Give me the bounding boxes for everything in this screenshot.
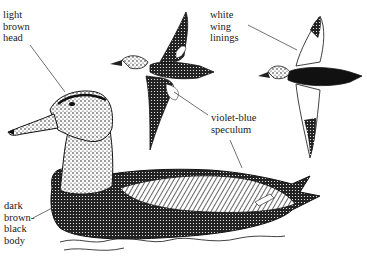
flying-duck-right xyxy=(258,16,362,158)
duck-drawing xyxy=(0,0,367,263)
flying-duck-center xyxy=(110,12,214,150)
duck-illustration: light brown head white wing linings viol… xyxy=(0,0,367,263)
label-dark-brown-black-body: dark brown- black body xyxy=(4,200,34,246)
label-light-brown-head: light brown head xyxy=(3,9,30,44)
label-violet-blue-speculum: violet-blue speculum xyxy=(211,112,257,135)
label-white-wing-linings: white wing linings xyxy=(210,9,239,44)
swimming-duck xyxy=(8,91,320,250)
